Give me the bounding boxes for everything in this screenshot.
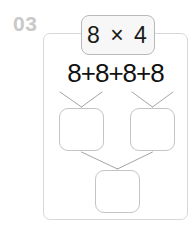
problem-index-label: 03 bbox=[13, 13, 37, 34]
product-expression-chip: 8 × 4 bbox=[81, 15, 155, 55]
worksheet-problem-card: 03 8 × 4 8+8+8+8 bbox=[0, 0, 194, 226]
answer-box-left-partial-sum[interactable] bbox=[59, 108, 104, 151]
repeated-addition-expression: 8+8+8+8 bbox=[43, 60, 188, 86]
answer-box-total-product[interactable] bbox=[95, 170, 140, 213]
answer-box-right-partial-sum[interactable] bbox=[130, 108, 175, 151]
